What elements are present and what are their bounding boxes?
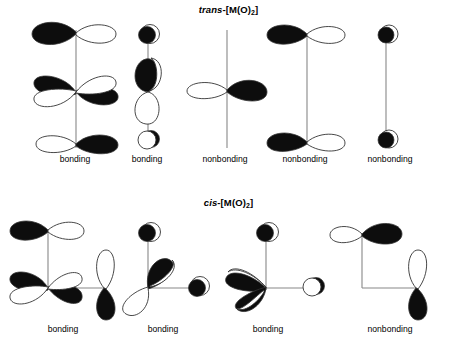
trans-diagram-3-nonbonding	[265, 20, 349, 155]
p-lobe-open	[97, 250, 115, 289]
cis-diagram-0-caption: bonding	[48, 324, 79, 334]
cis-diagram-0-bonding	[8, 216, 128, 322]
trans-diagram-1-caption: bonding	[132, 154, 163, 164]
p-lobe-filled	[97, 288, 115, 320]
trans-diagram-3-caption: nonbonding	[283, 154, 328, 164]
cis-diagram-3-nonbonding	[340, 216, 450, 322]
trans-title-rest: -[M(O)	[222, 4, 251, 15]
s-orbital-filled	[378, 132, 394, 148]
trans-diagram-0-caption: bonding	[60, 154, 91, 164]
cis-diagram-1-bonding	[114, 216, 224, 322]
cis-title-rest: -[M(O)	[217, 197, 246, 208]
d-lobe-lower-left-open	[34, 89, 76, 107]
s-orbital-open	[138, 131, 156, 149]
cis-diagram-3-caption: nonbonding	[368, 324, 413, 334]
trans-section-title: trans-[M(O)2]	[0, 4, 457, 16]
s-orbital-filled	[189, 280, 206, 297]
trans-diagram-1-bonding	[118, 20, 178, 155]
cis-section-title: cis-[M(O)2]	[0, 197, 457, 209]
cis-diagram-2-caption: bonding	[253, 324, 284, 334]
p-lobe-open	[36, 136, 76, 153]
s-orbital-filled	[139, 225, 156, 242]
p-lobe-filled	[362, 223, 402, 244]
cis-title-italic: cis	[204, 197, 218, 208]
trans-diagram-4-caption: nonbonding	[368, 154, 413, 164]
p-lobe-filled	[267, 133, 307, 151]
cis-diagram-1-caption: bonding	[148, 324, 179, 334]
dz2-lobe-lower-open	[135, 92, 159, 124]
p-lobe-open	[307, 134, 345, 151]
trans-title-suffix: ]	[255, 4, 258, 15]
p-lobe-open	[409, 250, 427, 289]
trans-title-italic: trans	[199, 4, 223, 15]
p-lobe-filled	[10, 221, 48, 240]
p-lobe-open	[48, 222, 84, 239]
p-lobe-filled	[227, 80, 267, 101]
cis-diagram-2-bonding	[222, 216, 332, 322]
p-lobe-open	[76, 25, 116, 43]
d-lobe-upper-right-open	[48, 273, 82, 290]
trans-diagram-2-caption: nonbonding	[203, 154, 248, 164]
p-lobe-filled	[76, 135, 118, 154]
d-lobe-lower-left-open	[10, 286, 48, 304]
s-orbital-open	[303, 278, 321, 296]
p-lobe-open	[307, 27, 345, 44]
cis-title-suffix: ]	[250, 197, 253, 208]
p-lobe-filled	[267, 25, 307, 44]
trans-diagram-4-nonbonding	[360, 20, 420, 155]
p-lobe-open	[187, 83, 227, 99]
p-lobe-open	[330, 227, 362, 243]
p-lobe-open-diagonal	[123, 287, 149, 316]
p-lobe-filled	[409, 288, 427, 320]
trans-diagram-2-nonbonding	[185, 20, 269, 155]
s-orbital-filled	[257, 225, 274, 242]
s-orbital-filled	[139, 27, 156, 44]
orbital-diagram-figure: trans-[M(O)2] bonding bonding n	[0, 0, 457, 350]
s-orbital-filled	[378, 27, 394, 43]
p-lobe-filled	[32, 22, 76, 44]
trans-diagram-0-bonding	[20, 20, 132, 155]
